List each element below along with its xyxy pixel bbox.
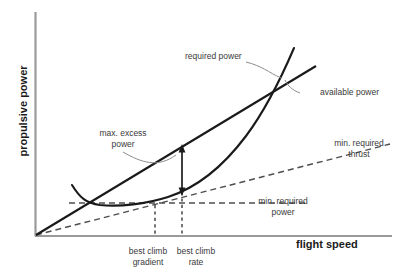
y-axis-title: propulsive power <box>17 46 29 176</box>
available-power-leader <box>285 80 300 93</box>
max-excess-power-leader <box>123 152 176 163</box>
required-power-leader <box>246 62 281 78</box>
min-required-power-label-line1: min. required <box>246 196 320 207</box>
available-power-label-line1: available power <box>320 87 379 98</box>
max-excess-power-label-line2: power <box>85 139 161 150</box>
min-required-thrust-label: min. required thrust <box>322 138 396 159</box>
max-excess-power-label: max. excess power <box>85 128 161 149</box>
x-axis-title: flight speed <box>296 238 358 250</box>
best-climb-rate-label-line1: best climb <box>163 246 229 257</box>
min-required-power-label: min. required power <box>246 196 320 217</box>
diagram-canvas: propulsive power flight speed required p… <box>0 0 399 278</box>
max-excess-power-arrow <box>179 144 186 196</box>
min-required-power-label-line2: power <box>246 207 320 218</box>
max-excess-power-label-line1: max. excess <box>85 128 161 139</box>
best-climb-rate-label: best climb rate <box>163 246 229 267</box>
required-power-label: required power <box>185 51 242 62</box>
best-climb-rate-label-line2: rate <box>163 257 229 268</box>
min-required-thrust-label-line2: thrust <box>322 149 396 160</box>
required-power-curve <box>72 48 294 206</box>
available-power-label: available power <box>320 87 379 98</box>
min-required-thrust-label-line1: min. required <box>322 138 396 149</box>
